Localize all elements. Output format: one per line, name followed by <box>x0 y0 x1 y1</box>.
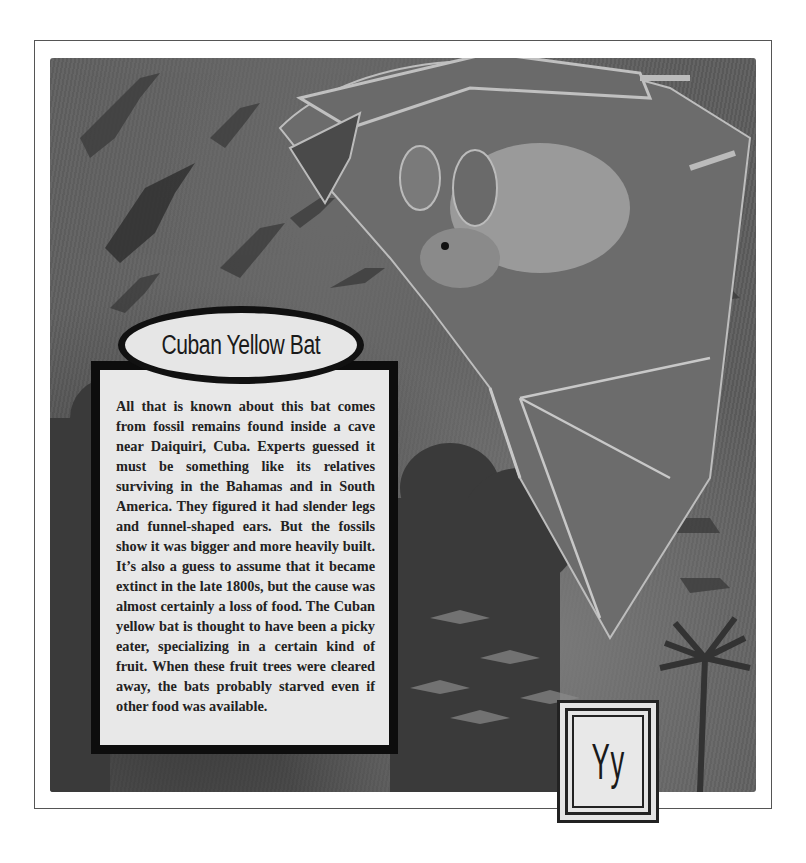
letter-badge-frame: Yy <box>565 708 651 815</box>
page-title: Cuban Yellow Bat <box>162 330 321 361</box>
title-oval: Cuban Yellow Bat <box>118 306 364 384</box>
letter-badge-inner: Yy <box>572 715 644 808</box>
description-panel: All that is known about this bat comes f… <box>91 361 398 754</box>
alphabet-letter-badge: Yy <box>557 700 659 823</box>
description-text: All that is known about this bat comes f… <box>116 396 375 716</box>
palm-tree-icon <box>660 618 750 792</box>
alphabet-letter: Yy <box>591 733 624 791</box>
